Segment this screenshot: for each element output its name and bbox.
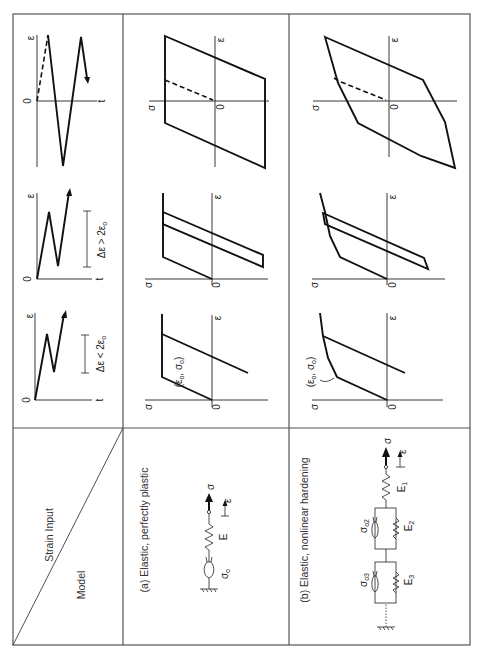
model-b-cell: (b) Elastic, nonlinear hardening σo3 E3 … — [298, 437, 415, 630]
spring-2-label: E2 — [403, 521, 415, 532]
header-diagonal — [13, 428, 123, 645]
spring-3-label: E3 — [403, 575, 415, 586]
axis-origin: 0 — [389, 104, 400, 110]
axis-origin: 0 — [21, 397, 32, 403]
strain-input-large-range-graph: 0 t ε Δε > 2εo — [22, 188, 108, 282]
axis-sigma-label: σ — [310, 104, 321, 111]
stress-a-symbol: σ — [205, 483, 216, 490]
spring-icon — [205, 524, 213, 550]
model-b-title: (b) Elastic, nonlinear hardening — [298, 457, 310, 602]
stress-arrow-icon — [205, 493, 213, 502]
axis-epsilon-label: ε — [24, 313, 35, 318]
header-model-label: Model — [75, 571, 87, 600]
response-b-cyclic-graph: σ 0 ε — [310, 36, 457, 168]
axis-origin: 0 — [22, 276, 33, 282]
axis-t-label: t — [96, 99, 107, 102]
strain-input-cyclic-graph: 0 t ε — [22, 35, 107, 167]
slider-a-label: σo — [219, 569, 231, 579]
axis-origin: 0 — [387, 404, 398, 410]
axis-epsilon-label: ε — [25, 193, 36, 198]
ground-icon — [377, 627, 395, 630]
slider-3-label: σo3 — [358, 573, 370, 587]
axis-origin: 0 — [22, 98, 33, 104]
axis-sigma-label: σ — [143, 403, 154, 410]
model-a-cell: (a) Elastic, perfectly plastic σo E σ ε — [138, 468, 233, 593]
axis-sigma-label: σ — [309, 281, 320, 288]
response-a-small-range-graph: σ 0 ε (εo, σo) — [143, 314, 268, 410]
response-a-cyclic-graph: σ 0 ε — [146, 36, 269, 168]
response-b-large-range-graph: σ 0 ε — [309, 193, 445, 288]
spring-icon — [382, 474, 390, 500]
axis-epsilon-label: ε — [387, 194, 398, 199]
strain-b-symbol: ε — [397, 449, 408, 454]
axis-epsilon-label: ε — [25, 35, 36, 40]
hysteresis-model-diagram: Strain Input Model (a) Elastic, perfectl… — [0, 0, 483, 655]
axis-epsilon-label: ε — [389, 37, 400, 42]
yield-point-label: (εo, σo) — [173, 357, 185, 388]
table-frame — [13, 14, 470, 645]
spring-1-label: E1 — [396, 482, 408, 493]
response-a-large-range-graph: σ 0 ε — [143, 193, 268, 288]
axis-t-label: t — [94, 398, 105, 401]
axis-epsilon-label: ε — [212, 194, 223, 199]
axis-sigma-label: σ — [309, 403, 320, 410]
range-label-less: Δε < 2εo — [95, 336, 107, 373]
axis-epsilon-label: ε — [387, 315, 398, 320]
strain-a-symbol: ε — [222, 498, 233, 503]
axis-epsilon-label: ε — [215, 37, 226, 42]
slider-2-label: σo2 — [358, 519, 370, 533]
axis-origin: 0 — [211, 404, 222, 410]
axis-origin: 0 — [215, 104, 226, 110]
axis-sigma-label: σ — [146, 104, 157, 111]
yield-pointer-icon — [320, 378, 334, 382]
ground-icon — [200, 589, 218, 592]
strain-input-small-range-graph: 0 t ε Δε < 2εo — [21, 310, 107, 403]
model-a-title: (a) Elastic, perfectly plastic — [138, 468, 150, 593]
stress-b-symbol: σ — [382, 437, 393, 444]
header-strain-input-label: Strain Input — [43, 508, 55, 562]
axis-epsilon-label: ε — [212, 315, 223, 320]
axis-origin: 0 — [211, 282, 222, 288]
yield-point-label: (εo, σo) — [305, 357, 317, 388]
axis-sigma-label: σ — [143, 281, 154, 288]
spring-a-label: E — [218, 533, 229, 540]
axis-t-label: t — [94, 277, 105, 280]
range-label-greater: Δε > 2εo — [96, 222, 108, 259]
response-b-small-range-graph: σ 0 ε (εo, σo) — [305, 313, 443, 410]
stress-arrow-icon — [382, 447, 390, 457]
axis-origin: 0 — [387, 282, 398, 288]
